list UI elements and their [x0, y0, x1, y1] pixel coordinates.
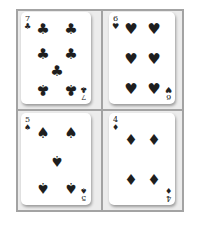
card-corner-bottom: 7 ♣ [80, 85, 87, 101]
card-4-diamonds[interactable]: 4 ♦ ♦ ♦ ♦ ♦ 4 ♦ [109, 113, 175, 205]
card-corner-bottom: 6 ♥ [165, 85, 172, 101]
club-icon: ♣ [80, 85, 87, 93]
card-6-hearts[interactable]: 6 ♥ ♥ ♥ ♥ ♥ ♥ ♥ 6 ♥ [109, 12, 175, 104]
club-icon: ♣ [64, 22, 77, 37]
heart-icon: ♥ [147, 82, 160, 97]
card-corner-bottom: 5 ♠ [80, 186, 87, 202]
diamond-icon: ♦ [165, 186, 172, 194]
club-icon: ♣ [36, 82, 49, 97]
card-7-clubs[interactable]: 7 ♣ ♣ ♣ ♣ ♣ ♣ ♣ ♣ 7 ♣ [21, 12, 91, 104]
heart-icon: ♥ [165, 85, 172, 93]
card-grid: 7 ♣ ♣ ♣ ♣ ♣ ♣ ♣ ♣ 7 ♣ 6 ♥ ♥ ♥ ♥ ♥ ♥ ♥ 6 … [16, 9, 184, 212]
club-icon: ♣ [64, 47, 77, 62]
spade-icon: ♠ [36, 180, 49, 195]
spade-icon: ♠ [80, 186, 87, 194]
card-5-spades[interactable]: 5 ♠ ♠ ♠ ♠ ♠ ♠ 5 ♠ [21, 113, 91, 205]
spade-icon: ♠ [36, 126, 49, 141]
diamond-icon: ♦ [124, 133, 137, 148]
club-icon: ♣ [64, 82, 77, 97]
card-corner-top: 4 ♦ [112, 116, 119, 132]
spade-icon: ♠ [64, 126, 77, 141]
grid-divider-horizontal [18, 109, 182, 111]
diamond-icon: ♦ [124, 173, 137, 188]
heart-icon: ♥ [112, 23, 119, 31]
diamond-icon: ♦ [147, 173, 160, 188]
club-icon: ♣ [50, 64, 63, 79]
card-rank: 6 [166, 93, 171, 101]
card-rank: 4 [166, 194, 171, 202]
heart-icon: ♥ [124, 82, 137, 97]
card-corner-top: 7 ♣ [24, 15, 31, 31]
club-icon: ♣ [36, 22, 49, 37]
heart-icon: ♥ [124, 22, 137, 37]
card-rank: 7 [81, 93, 86, 101]
card-corner-top: 6 ♥ [112, 15, 119, 31]
card-corner-bottom: 4 ♦ [165, 186, 172, 202]
heart-icon: ♥ [147, 52, 160, 67]
spade-icon: ♠ [24, 124, 31, 132]
heart-icon: ♥ [124, 52, 137, 67]
spade-icon: ♠ [64, 180, 77, 195]
card-rank: 5 [81, 194, 86, 202]
club-icon: ♣ [36, 47, 49, 62]
spade-icon: ♠ [50, 153, 63, 168]
diamond-icon: ♦ [147, 133, 160, 148]
club-icon: ♣ [24, 23, 31, 31]
heart-icon: ♥ [147, 22, 160, 37]
diamond-icon: ♦ [112, 124, 119, 132]
card-corner-top: 5 ♠ [24, 116, 31, 132]
